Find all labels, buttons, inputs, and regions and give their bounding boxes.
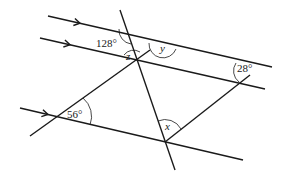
angle-labels: 128°zy28°56°x [67, 37, 252, 132]
angle-x: x [164, 120, 170, 132]
line-2 [40, 38, 265, 89]
geometry-diagram: 128°zy28°56°x [0, 0, 285, 178]
lines-group [20, 10, 272, 170]
arc-56 [83, 98, 92, 125]
angle-56: 56° [67, 108, 82, 120]
angle-28: 28° [237, 62, 252, 74]
diagonal-right [165, 75, 250, 142]
diagonal-left [30, 50, 150, 136]
angle-z: z [125, 50, 131, 62]
angle-y: y [159, 42, 165, 54]
steep-transversal [120, 10, 175, 170]
angle-128: 128° [96, 37, 117, 49]
line-3 [20, 108, 243, 160]
